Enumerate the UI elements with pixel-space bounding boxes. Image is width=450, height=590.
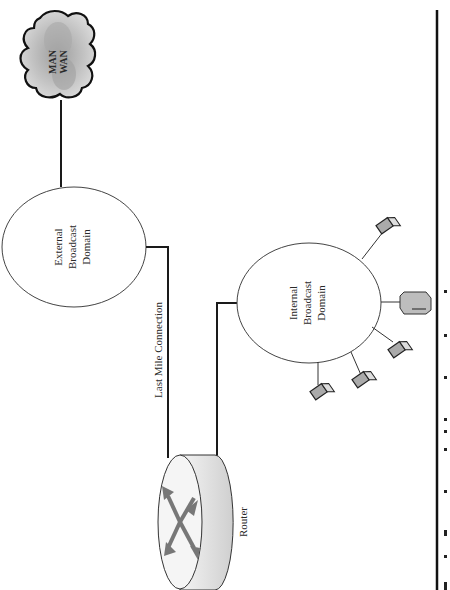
last-mile-label: Last Mile Connection bbox=[152, 302, 164, 398]
cloud-label-wan: WAN bbox=[58, 50, 69, 74]
laptop-icon bbox=[352, 368, 376, 391]
laptop-icon bbox=[376, 214, 400, 237]
router-icon bbox=[158, 455, 233, 590]
cloud-label-man: MAN bbox=[47, 49, 58, 74]
router-lan-link bbox=[217, 303, 238, 458]
router-label: Router bbox=[237, 507, 249, 537]
caption-fragments bbox=[444, 290, 447, 590]
laptop-icon bbox=[310, 380, 334, 403]
internal-domain-line3: Domain bbox=[315, 285, 327, 321]
internal-domain-line2: Broadcast bbox=[301, 281, 313, 325]
network-diagram: MAN WAN External Broadcast Domain Last M… bbox=[0, 0, 450, 590]
server-icon bbox=[400, 292, 431, 314]
external-domain-line1: External bbox=[52, 228, 64, 265]
external-domain-line3: Domain bbox=[80, 229, 92, 265]
external-domain-line2: Broadcast bbox=[66, 225, 78, 269]
internal-domain-line1: Internal bbox=[287, 286, 299, 320]
